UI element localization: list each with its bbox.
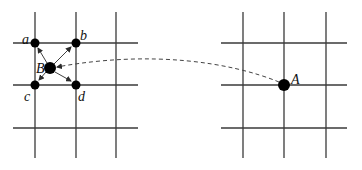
arrow-B-to-d [55, 72, 71, 81]
dashed-mapping-arrow [57, 59, 279, 82]
point-B [44, 62, 56, 74]
point-A [278, 79, 290, 91]
label-a: a [22, 32, 29, 47]
diagram-canvas: a b c d B A [0, 0, 362, 170]
point-a [31, 39, 40, 48]
point-c [31, 81, 40, 90]
label-d: d [78, 89, 86, 104]
arrow-B-to-b [54, 47, 71, 64]
label-A: A [290, 72, 300, 87]
label-B: B [36, 61, 45, 76]
label-b: b [80, 28, 87, 43]
label-c: c [24, 89, 31, 104]
